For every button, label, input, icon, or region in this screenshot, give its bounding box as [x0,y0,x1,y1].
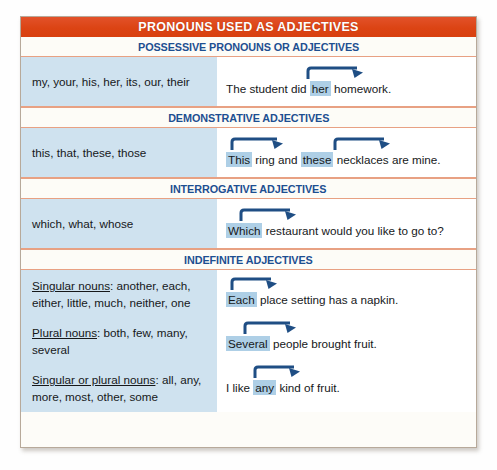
table-row-demonstrative: this, that, these, those [21,128,476,178]
table-row-possessive: my, your, his, her, its, our, their The … [21,57,476,107]
indefinite-group-either-label: Singular or plural nouns [32,373,155,386]
section-header-interrogative-label: INTERROGATIVE ADJECTIVES [170,183,326,195]
modifier-arrow-icon [305,66,367,80]
indefinite-example-3: I like any kind of fruit. [226,365,468,396]
highlighted-pronoun: Each [226,292,257,307]
indefinite-example-sentence-1: Each place setting has a napkin. [226,277,468,308]
highlighted-pronoun: Several [226,336,270,351]
demonstrative-example-cell: This ring and these necklaces are mine. [217,128,476,177]
page-root: PRONOUNS USED AS ADJECTIVES POSSESSIVE P… [0,0,497,470]
table-title-band: PRONOUNS USED AS ADJECTIVES [21,17,476,37]
section-header-demonstrative: DEMONSTRATIVE ADJECTIVES [21,107,476,128]
possessive-example-sentence: The student did her homework. [226,66,468,97]
demonstrative-word-list: this, that, these, those [21,128,217,177]
highlighted-pronoun: Which [226,223,262,238]
demonstrative-word-list-text: this, that, these, those [32,144,207,161]
sentence-text-after: place setting has a napkin. [257,293,399,306]
demonstrative-example-sentence: This ring and these necklaces are mine. [226,137,468,168]
highlighted-pronoun: This [226,152,252,167]
section-header-indefinite: INDEFINITE ADJECTIVES [21,249,476,270]
sentence-text-after: kind of fruit. [276,381,340,394]
pronouns-adjectives-table-card: PRONOUNS USED AS ADJECTIVES POSSESSIVE P… [20,16,477,448]
sentence-text-before: The student did [226,82,310,95]
indefinite-group-singular-label: Singular nouns [32,279,110,292]
modifier-arrow-icon [229,137,287,151]
indefinite-example-2: Several people brought fruit. [226,321,468,352]
indefinite-group-plural-label: Plural nouns [32,326,97,339]
sentence-text-after: restaurant would you like to go to? [262,224,443,237]
indefinite-word-lists: Singular nouns: another, each, either, l… [21,270,217,412]
indefinite-example-sentence-3: I like any kind of fruit. [226,365,468,396]
interrogative-example-cell: Which restaurant would you like to go to… [217,199,476,248]
modifier-arrow-icon [242,321,300,335]
possessive-word-list: my, your, his, her, its, our, their [21,57,217,106]
possessive-example-cell: The student did her homework. [217,57,476,106]
table-row-indefinite: Singular nouns: another, each, either, l… [21,270,476,412]
section-header-indefinite-label: INDEFINITE ADJECTIVES [184,254,313,266]
section-header-interrogative: INTERROGATIVE ADJECTIVES [21,178,476,199]
modifier-arrow-icon [229,277,281,291]
table-row-interrogative: which, what, whose Which restaurant woul… [21,199,476,249]
interrogative-word-list: which, what, whose [21,199,217,248]
table-title: PRONOUNS USED AS ADJECTIVES [138,20,358,34]
indefinite-example-sentence-2: Several people brought fruit. [226,321,468,352]
indefinite-group-either: Singular or plural nouns: all, any, more… [32,371,207,405]
sentence-text-after: necklaces are mine. [333,153,440,166]
section-header-possessive-label: POSSESSIVE PRONOUNS OR ADJECTIVES [138,41,359,53]
highlighted-pronoun: any [253,380,276,395]
indefinite-example-cell: Each place setting has a napkin. Several… [217,270,476,412]
indefinite-group-singular: Singular nouns: another, each, either, l… [32,277,207,311]
highlighted-pronoun: her [310,81,331,96]
modifier-arrow-icon [238,208,300,222]
interrogative-example-sentence: Which restaurant would you like to go to… [226,208,468,239]
sentence-text-after: homework. [331,82,391,95]
highlighted-pronoun-2: these [301,152,334,167]
sentence-text-mid: ring and [252,153,301,166]
indefinite-example-1: Each place setting has a napkin. [226,277,468,308]
interrogative-word-list-text: which, what, whose [32,215,207,232]
sentence-text-after: people brought fruit. [270,337,377,350]
section-header-possessive: POSSESSIVE PRONOUNS OR ADJECTIVES [21,37,476,57]
sentence-text-before: I like [226,381,253,394]
modifier-arrow-icon [252,365,304,379]
modifier-arrow-icon [332,137,394,151]
indefinite-group-plural: Plural nouns: both, few, many, several [32,324,207,358]
section-header-demonstrative-label: DEMONSTRATIVE ADJECTIVES [168,112,329,124]
possessive-word-list-text: my, your, his, her, its, our, their [32,73,207,90]
